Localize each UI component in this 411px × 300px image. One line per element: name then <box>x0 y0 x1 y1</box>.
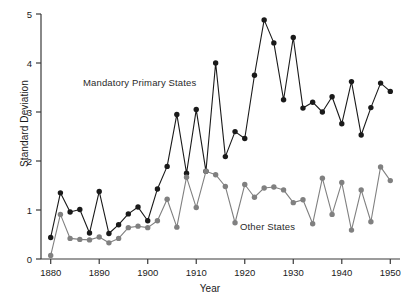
y-tick-label: 4 <box>27 58 32 69</box>
chart-container: 012345 18801890190019101920193019401950 … <box>0 0 411 300</box>
data-point <box>164 197 169 202</box>
data-point <box>339 121 344 126</box>
data-point <box>135 204 140 209</box>
x-tick-label: 1900 <box>137 267 158 278</box>
data-point <box>261 17 266 22</box>
data-point <box>388 178 393 183</box>
data-point <box>67 236 72 241</box>
x-tick-label: 1950 <box>380 267 401 278</box>
series-label-other-states: Other States <box>240 221 295 232</box>
data-point <box>358 187 363 192</box>
x-tick-label: 1920 <box>234 267 255 278</box>
x-tick-label: 1940 <box>331 267 352 278</box>
data-point <box>126 225 131 230</box>
data-point <box>87 237 92 242</box>
data-point <box>232 129 237 134</box>
data-point <box>116 222 121 227</box>
data-point <box>349 227 354 232</box>
data-point <box>329 94 334 99</box>
data-point <box>320 109 325 114</box>
data-point <box>77 237 82 242</box>
data-point <box>271 184 276 189</box>
data-point <box>310 100 315 105</box>
series-line <box>51 167 391 256</box>
data-point <box>368 219 373 224</box>
data-point <box>97 234 102 239</box>
x-axis-ticks: 18801890190019101920193019401950 <box>40 259 401 278</box>
data-point <box>184 174 189 179</box>
series-label-mandatory-primary-states: Mandatory Primary States <box>83 77 196 88</box>
data-point <box>135 223 140 228</box>
x-tick-label: 1890 <box>89 267 110 278</box>
data-point <box>145 218 150 223</box>
y-axis-title: Standard Deviation <box>19 74 30 174</box>
data-point <box>291 35 296 40</box>
data-point <box>368 105 373 110</box>
data-point <box>155 186 160 191</box>
data-point <box>67 209 72 214</box>
data-point <box>252 195 257 200</box>
x-axis-title: Year <box>150 283 270 294</box>
data-point <box>223 154 228 159</box>
data-point <box>291 200 296 205</box>
data-point <box>339 180 344 185</box>
data-point <box>378 80 383 85</box>
x-tick-label: 1880 <box>40 267 61 278</box>
data-point <box>261 185 266 190</box>
data-point <box>378 164 383 169</box>
data-point <box>48 253 53 258</box>
data-point <box>194 107 199 112</box>
data-point <box>97 189 102 194</box>
data-point <box>174 224 179 229</box>
data-point <box>77 207 82 212</box>
y-tick-label: 5 <box>27 9 32 20</box>
data-point <box>388 89 393 94</box>
data-point <box>232 220 237 225</box>
axes-group <box>41 14 400 259</box>
data-point <box>87 230 92 235</box>
data-point <box>116 236 121 241</box>
line-chart-svg: 012345 18801890190019101920193019401950 <box>0 0 411 300</box>
data-point <box>242 182 247 187</box>
data-point <box>194 205 199 210</box>
data-point <box>145 225 150 230</box>
data-point <box>281 97 286 102</box>
x-tick-label: 1930 <box>283 267 304 278</box>
data-point <box>300 105 305 110</box>
data-point <box>58 190 63 195</box>
data-point <box>213 60 218 65</box>
data-point <box>223 184 228 189</box>
data-point <box>106 240 111 245</box>
data-point <box>58 212 63 217</box>
data-point <box>126 211 131 216</box>
data-point <box>271 40 276 45</box>
data-point <box>281 187 286 192</box>
data-point <box>48 235 53 240</box>
data-point <box>358 132 363 137</box>
data-point <box>300 197 305 202</box>
data-point <box>349 79 354 84</box>
data-point <box>329 212 334 217</box>
data-point <box>213 172 218 177</box>
series-mandatory-primary-states <box>48 17 393 240</box>
data-point <box>310 221 315 226</box>
data-point <box>320 175 325 180</box>
series-other-states <box>48 164 393 258</box>
data-point <box>242 136 247 141</box>
data-point <box>203 169 208 174</box>
data-point <box>164 164 169 169</box>
data-series-layer <box>48 17 393 258</box>
data-point <box>155 218 160 223</box>
series-line <box>51 20 391 238</box>
data-point <box>106 231 111 236</box>
y-tick-label: 1 <box>27 205 32 216</box>
y-tick-label: 0 <box>27 254 32 265</box>
data-point <box>252 73 257 78</box>
data-point <box>174 112 179 117</box>
x-tick-label: 1910 <box>186 267 207 278</box>
